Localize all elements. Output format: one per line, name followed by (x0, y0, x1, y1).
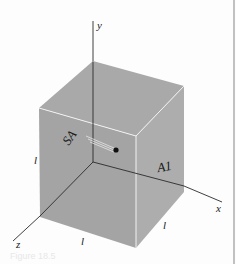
diagram-svg (0, 0, 236, 264)
x-axis-line-outer (184, 186, 222, 202)
edge-length-front-label: l (81, 236, 84, 247)
cube-diagram: y x z l l l SA A1 Figure 18.5 (0, 0, 236, 264)
edge-length-right-label: l (163, 220, 166, 231)
z-axis-label: z (16, 239, 20, 250)
particle-dot (113, 147, 118, 152)
figure-caption: Figure 18.5 (10, 251, 56, 261)
x-axis-label: x (216, 203, 221, 214)
y-axis-label: y (97, 20, 102, 31)
edge-length-left-label: l (34, 155, 37, 166)
right-face-label: A1 (156, 159, 172, 174)
